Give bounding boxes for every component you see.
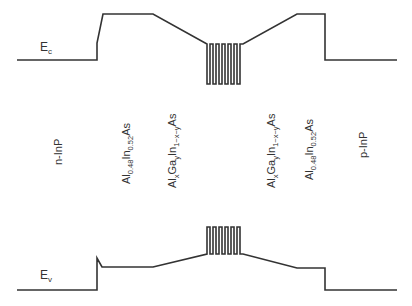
layer-label-p-inp: p-InP (357, 132, 369, 158)
layer-label-alinas-left: Al0.48In0.52As (120, 123, 135, 184)
layer-label-n-inp: n-InP (52, 139, 64, 165)
layer-label-algainas-right: AlxGayIn1−x−yAs (265, 114, 280, 188)
valence-band-label: Ev (40, 268, 52, 284)
valence-band-line (17, 227, 397, 290)
conduction-band-label: Ec (40, 40, 52, 56)
layer-label-alinas-right: Al0.48In0.52As (303, 119, 318, 180)
layer-label-algainas-left: AlxGayIn1−x−yAs (166, 114, 181, 188)
conduction-band-line (17, 14, 397, 84)
